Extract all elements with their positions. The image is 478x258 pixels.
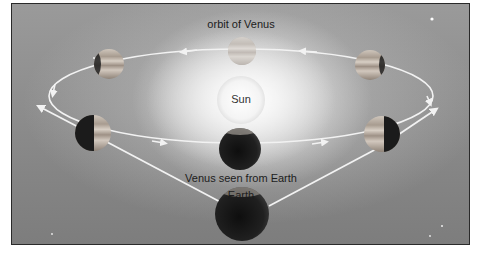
orbit-arrow-icon [152, 141, 164, 143]
earth-label: Earth [228, 189, 254, 201]
sun-label: Sun [231, 93, 251, 105]
earth-icon [215, 177, 269, 241]
star-icon [429, 235, 431, 237]
star-icon [441, 225, 443, 227]
star-icon [93, 57, 95, 59]
orbit-arrow-icon [427, 96, 430, 103]
orbit-of-venus-label: orbit of Venus [207, 18, 274, 30]
venus-upper-right-icon [355, 49, 397, 81]
diagram-frame: orbit of Venus Sun Venus seen from Earth… [11, 3, 470, 245]
venus-seen-from-earth-label: Venus seen from Earth [185, 172, 297, 184]
venus-top-icon [228, 37, 256, 65]
orbit-scene [12, 4, 470, 245]
venus-right-icon [364, 116, 402, 152]
star-icon [430, 17, 433, 20]
orbit-arrow-icon [302, 51, 317, 52]
star-icon [51, 233, 53, 235]
venus-upper-left-icon [83, 48, 124, 80]
